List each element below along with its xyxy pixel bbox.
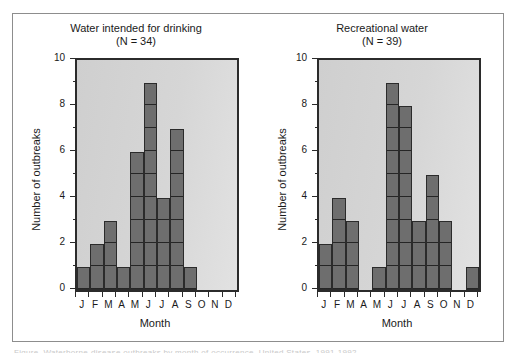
- x-tick-label-10: N: [450, 299, 463, 311]
- x-tick-0: [75, 292, 76, 297]
- x-tick-10: [208, 292, 209, 297]
- x-axis-title-left: Month: [75, 317, 235, 330]
- x-tick-label-8: S: [182, 299, 195, 311]
- panel-recreational-water: Recreational water (N = 39) 1086420 JFMA…: [259, 14, 505, 343]
- x-tick-label-9: O: [437, 299, 450, 311]
- y-tick-label-2: 2: [301, 237, 307, 247]
- bar-j-0[interactable]: [319, 244, 332, 290]
- x-tick-label-5: J: [384, 299, 397, 311]
- x-tick-label-1: F: [330, 299, 343, 311]
- bar-j-6[interactable]: [399, 106, 412, 290]
- x-tick-9: [437, 292, 438, 297]
- y-axis-tick-labels-right: 1086420: [285, 58, 311, 288]
- x-tick-12: [235, 292, 236, 297]
- bar-a-3[interactable]: [117, 267, 130, 290]
- x-tick-10: [450, 292, 451, 297]
- x-axis-tick-labels-left: JFMAMJJASOND: [75, 299, 235, 311]
- bar-slot: [466, 60, 479, 290]
- x-tick-9: [195, 292, 196, 297]
- x-tick-label-7: A: [168, 299, 181, 311]
- bar-series-right: [319, 60, 479, 290]
- bar-slot: [144, 60, 157, 290]
- bar-a-7[interactable]: [170, 129, 183, 290]
- bar-s-8[interactable]: [184, 267, 197, 290]
- x-tick-1: [88, 292, 89, 297]
- bar-slot: [412, 60, 425, 290]
- x-axis-tick-labels-right: JFMAMJJASOND: [317, 299, 477, 311]
- x-tick-label-10: N: [208, 299, 221, 311]
- x-tick-7: [410, 292, 411, 297]
- bar-slot: [184, 60, 197, 290]
- x-tick-11: [464, 292, 465, 297]
- x-tick-label-2: M: [102, 299, 115, 311]
- y-tick-label-4: 4: [301, 191, 307, 201]
- bar-slot: [399, 60, 412, 290]
- x-axis-ticks-right: [315, 292, 479, 298]
- x-tick-3: [357, 292, 358, 297]
- panel-subtitle-right-text: (N = 39): [259, 35, 505, 48]
- bar-a-7[interactable]: [412, 221, 425, 290]
- y-tick-label-0: 0: [301, 283, 307, 293]
- bar-o-9[interactable]: [439, 221, 452, 290]
- bar-slot: [197, 60, 210, 290]
- bar-slot: [346, 60, 359, 290]
- bar-series-left: [77, 60, 237, 290]
- x-axis-ticks-left: [73, 292, 237, 298]
- bar-s-8[interactable]: [426, 175, 439, 290]
- y-tick-label-4: 4: [59, 191, 65, 201]
- bar-f-1[interactable]: [90, 244, 103, 290]
- figure-caption-sliver: Figure. Waterborne-disease outbreaks by …: [14, 348, 514, 353]
- x-tick-label-6: J: [397, 299, 410, 311]
- x-tick-7: [168, 292, 169, 297]
- y-tick-label-8: 8: [59, 99, 65, 109]
- bar-d-11[interactable]: [466, 267, 479, 290]
- y-tick-label-6: 6: [301, 145, 307, 155]
- panel-title-left-text: Water intended for drinking: [70, 22, 202, 34]
- x-tick-label-6: J: [155, 299, 168, 311]
- x-tick-1: [330, 292, 331, 297]
- x-tick-label-4: M: [128, 299, 141, 311]
- y-axis-title-right: Number of outbreaks: [276, 110, 289, 250]
- x-axis-title-right: Month: [317, 317, 477, 330]
- bar-slot: [77, 60, 90, 290]
- y-axis-title-left: Number of outbreaks: [30, 110, 43, 250]
- x-tick-6: [155, 292, 156, 297]
- x-tick-8: [424, 292, 425, 297]
- panel-title-left: Water intended for drinking (N = 34): [13, 22, 259, 48]
- bar-slot: [90, 60, 103, 290]
- bar-slot: [170, 60, 183, 290]
- y-axis-tick-labels-left: 1086420: [43, 58, 69, 288]
- x-tick-11: [222, 292, 223, 297]
- x-tick-label-3: A: [115, 299, 128, 311]
- panel-subtitle-left-text: (N = 34): [13, 35, 259, 48]
- y-tick-label-10: 10: [54, 53, 65, 63]
- bar-m-2[interactable]: [346, 221, 359, 290]
- plot-area-left: [75, 58, 239, 292]
- bar-slot: [372, 60, 385, 290]
- bar-j-5[interactable]: [386, 83, 399, 290]
- bar-slot: [210, 60, 223, 290]
- x-tick-8: [182, 292, 183, 297]
- x-tick-label-11: D: [222, 299, 235, 311]
- bar-slot: [359, 60, 372, 290]
- x-tick-6: [397, 292, 398, 297]
- figure-frame: Water intended for drinking (N = 34) 108…: [12, 13, 504, 342]
- bar-j-0[interactable]: [77, 267, 90, 290]
- bar-m-2[interactable]: [104, 221, 117, 290]
- bar-slot: [452, 60, 465, 290]
- x-tick-3: [115, 292, 116, 297]
- plot-area-right: [317, 58, 481, 292]
- x-tick-2: [102, 292, 103, 297]
- bar-m-4[interactable]: [130, 152, 143, 290]
- x-tick-label-4: M: [370, 299, 383, 311]
- x-tick-label-2: M: [344, 299, 357, 311]
- bar-f-1[interactable]: [332, 198, 345, 290]
- bar-m-4[interactable]: [372, 267, 385, 290]
- bar-slot: [117, 60, 130, 290]
- x-tick-5: [384, 292, 385, 297]
- x-tick-label-7: A: [410, 299, 423, 311]
- x-tick-label-11: D: [464, 299, 477, 311]
- bar-j-6[interactable]: [157, 198, 170, 290]
- x-tick-label-0: J: [317, 299, 330, 311]
- bar-j-5[interactable]: [144, 83, 157, 290]
